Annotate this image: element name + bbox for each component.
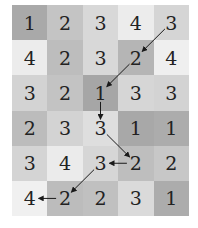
grid-cell: 3: [83, 40, 118, 75]
grid-cell: 4: [154, 40, 189, 75]
grid-cell: 2: [47, 181, 82, 216]
grid-cell: 3: [118, 75, 153, 110]
grid-cell: 2: [12, 111, 47, 146]
grid-cell: 2: [47, 75, 82, 110]
grid-cell: 2: [154, 146, 189, 181]
grid-cell: 1: [83, 75, 118, 110]
grid-cell: 3: [154, 5, 189, 40]
grid-cell: 2: [47, 5, 82, 40]
grid-cell: 2: [118, 146, 153, 181]
number-grid: 1 2 3 4 3 4 2 3 2 4 3 2 1 3 3 2 3 3 1 1 …: [12, 5, 189, 216]
grid-cell: 1: [118, 111, 153, 146]
grid-cell: 3: [12, 75, 47, 110]
grid-cell: 1: [154, 111, 189, 146]
grid-cell: 2: [83, 181, 118, 216]
grid-cell: 3: [154, 75, 189, 110]
grid-cell: 3: [83, 5, 118, 40]
grid-cell: 4: [118, 5, 153, 40]
grid-cell: 2: [47, 40, 82, 75]
grid-cell: 1: [154, 181, 189, 216]
grid-cell: 1: [12, 5, 47, 40]
grid-cell: 4: [47, 146, 82, 181]
grid-cell: 2: [118, 40, 153, 75]
grid-cell: 3: [47, 111, 82, 146]
grid-cell: 4: [12, 181, 47, 216]
grid-cell: 4: [12, 40, 47, 75]
grid-cell: 3: [12, 146, 47, 181]
grid-cell: 3: [83, 146, 118, 181]
grid-cell: 3: [118, 181, 153, 216]
grid-cell: 3: [83, 111, 118, 146]
